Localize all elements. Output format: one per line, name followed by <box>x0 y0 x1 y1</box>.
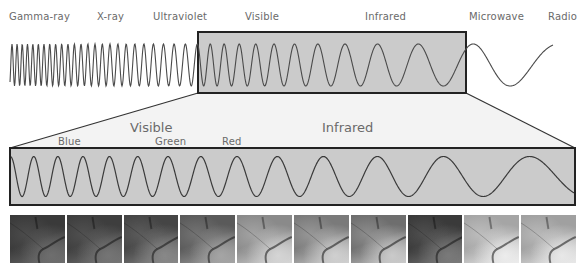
band-image-7 <box>351 215 406 263</box>
band-image-10 <box>521 215 576 263</box>
band-label-x-ray: X-ray <box>97 11 124 22</box>
color-label-blue: Blue <box>58 136 81 147</box>
band-image-2 <box>67 215 122 263</box>
river-feature-icon <box>294 215 349 263</box>
band-label-visible: Visible <box>245 11 279 22</box>
river-feature-icon <box>464 215 519 263</box>
zoom-connector <box>10 93 575 148</box>
color-label-red: Red <box>222 136 242 147</box>
band-label-radio: Radio <box>548 11 577 22</box>
river-feature-icon <box>180 215 235 263</box>
river-feature-icon <box>10 215 65 263</box>
river-feature-icon <box>408 215 463 263</box>
river-feature-icon <box>67 215 122 263</box>
band-label-ultraviolet: Ultraviolet <box>153 11 207 22</box>
river-feature-icon <box>124 215 179 263</box>
region-label-infrared: Infrared <box>322 120 373 135</box>
band-image-3 <box>124 215 179 263</box>
band-label-microwave: Microwave <box>469 11 524 22</box>
visible-infrared-highlight-box <box>198 32 466 93</box>
color-label-green: Green <box>155 136 186 147</box>
river-feature-icon <box>521 215 576 263</box>
band-image-4 <box>180 215 235 263</box>
band-label-infrared: Infrared <box>365 11 406 22</box>
band-image-9 <box>464 215 519 263</box>
band-image-1 <box>10 215 65 263</box>
region-label-visible: Visible <box>130 120 172 135</box>
band-image-8 <box>408 215 463 263</box>
river-feature-icon <box>237 215 292 263</box>
river-feature-icon <box>351 215 406 263</box>
band-image-5 <box>237 215 292 263</box>
band-label-gamma-ray: Gamma-ray <box>9 11 70 22</box>
band-image-6 <box>294 215 349 263</box>
band-image-strip <box>10 215 576 263</box>
